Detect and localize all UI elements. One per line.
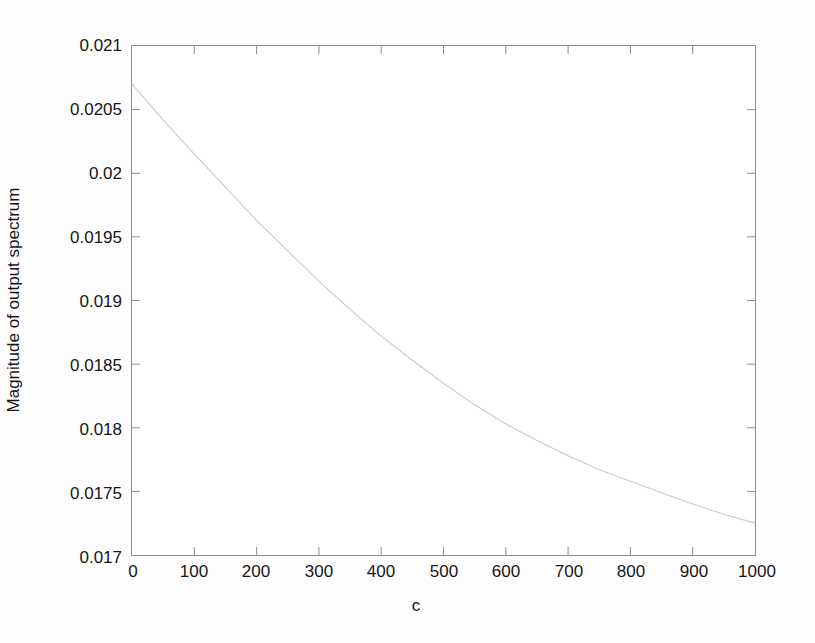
x-tick-label: 300 <box>305 563 333 580</box>
y-axis-label: Magnitude of output spectrum <box>5 188 22 413</box>
x-tick-label: 400 <box>367 563 395 580</box>
y-tick-label: 0.021 <box>79 37 122 54</box>
tick-marks <box>132 46 755 555</box>
x-tick-label: 600 <box>492 563 520 580</box>
figure-canvas: 0.021 0.0205 0.02 0.0195 0.019 0.0185 0.… <box>0 0 815 643</box>
x-tick-label: 1000 <box>738 563 776 580</box>
x-tick-label: 200 <box>242 563 270 580</box>
x-tick-label: 800 <box>617 563 645 580</box>
x-axis-tick-labels: 0 100 200 300 400 500 600 700 800 900 10… <box>0 563 815 587</box>
x-axis-label: c <box>412 597 421 614</box>
x-tick-label: 900 <box>680 563 708 580</box>
y-tick-label: 0.018 <box>79 421 122 438</box>
y-tick-label: 0.0195 <box>70 229 122 246</box>
y-tick-label: 0.02 <box>89 165 122 182</box>
x-tick-label: 0 <box>128 563 137 580</box>
y-tick-label: 0.0185 <box>70 357 122 374</box>
x-tick-label: 100 <box>180 563 208 580</box>
y-tick-label: 0.0205 <box>70 101 122 118</box>
plot-area <box>131 45 756 556</box>
y-tick-label: 0.019 <box>79 293 122 310</box>
data-series-line <box>132 84 755 523</box>
y-tick-label: 0.0175 <box>70 485 122 502</box>
x-tick-label: 700 <box>555 563 583 580</box>
plot-svg <box>132 46 755 555</box>
x-tick-label: 500 <box>430 563 458 580</box>
